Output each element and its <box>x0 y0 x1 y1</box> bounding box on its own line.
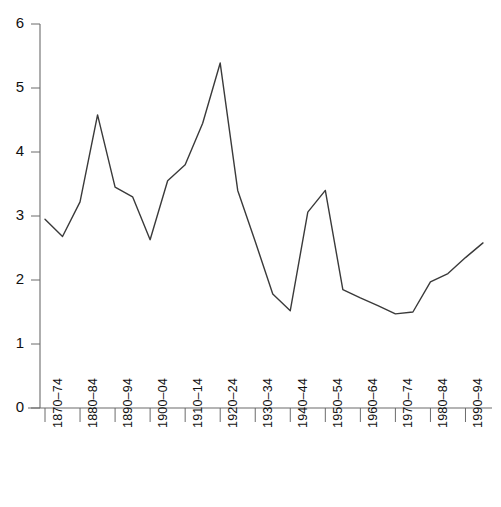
x-axis-tick-label: 1970–74 <box>401 378 415 428</box>
plot-area <box>0 0 501 507</box>
x-axis-tick-label: 1960–64 <box>366 378 380 428</box>
x-axis-tick-label: 1920–24 <box>226 378 240 428</box>
x-axis-tick-label: 1930–34 <box>261 378 275 428</box>
x-axis-tick-label: 1950–54 <box>331 378 345 428</box>
x-axis-tick-label: 1980–84 <box>436 378 450 428</box>
x-axis-tick-label: 1890–94 <box>121 378 135 428</box>
x-axis-tick-label: 1940–44 <box>296 378 310 428</box>
x-axis-tick-label: 1990–94 <box>471 378 485 428</box>
x-axis-tick-label: 1900–04 <box>156 378 170 428</box>
line-chart: 6543210 1870–741880–841890–941900–041910… <box>0 0 501 507</box>
x-axis-tick-label: 1880–84 <box>86 378 100 428</box>
y-axis-tick-label: 0 <box>2 398 24 415</box>
x-axis-tick-label: 1870–74 <box>51 378 65 428</box>
y-axis-tick-label: 2 <box>2 270 24 287</box>
y-axis-tick-label: 1 <box>2 334 24 351</box>
x-axis-tick-label: 1910–14 <box>191 378 205 428</box>
y-axis-tick-label: 6 <box>2 14 24 31</box>
y-axis-tick-label: 5 <box>2 78 24 95</box>
data-series-line <box>45 63 483 314</box>
axis-group <box>28 24 492 422</box>
y-axis-tick-label: 4 <box>2 142 24 159</box>
y-axis-tick-label: 3 <box>2 206 24 223</box>
